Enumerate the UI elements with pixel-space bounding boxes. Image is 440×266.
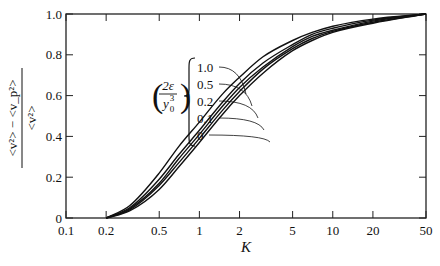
x-tick-label: 5 [289,223,296,238]
legend-entry-0-1: 0.1 [197,111,213,126]
svg-text:0: 0 [170,104,175,114]
y-axis-label: <v²> − <v_p²> <v²> [5,68,39,168]
legend-entry-1-0: 1.0 [197,60,213,75]
x-tick-label: 0.2 [98,223,114,238]
y-tick-label: 0 [56,211,63,226]
x-tick-label: 0.5 [151,223,167,238]
legend-entry-0: 0 [197,128,204,143]
x-tick-label: 1 [196,223,203,238]
plot-frame [66,14,426,218]
chart: 0.10.20.5125102050 00.20.40.60.81.0 ()2ε… [0,0,440,266]
x-axis-label: K [240,239,252,255]
svg-text:3: 3 [170,93,175,103]
data-series [106,14,426,218]
legend-leader-line [219,118,264,130]
svg-text:y: y [161,96,169,111]
legend-leader-line [209,135,270,142]
x-tick-label: 50 [420,223,433,238]
svg-text:2ε: 2ε [162,78,175,93]
x-axis-ticks: 0.10.20.5125102050 [58,14,433,238]
series-curve-0-2 [106,14,426,218]
y-axis-label-denominator: <v²> [24,105,39,130]
series-curve-0 [106,14,426,218]
x-tick-label: 10 [326,223,339,238]
plot-axes [66,14,426,218]
y-tick-label: 0.6 [46,88,63,103]
legend-entry-0-2: 0.2 [197,94,213,109]
series-curve-1-0 [106,14,426,218]
y-axis-label-numerator: <v²> − <v_p²> [5,80,20,157]
legend-entry-0-5: 0.5 [197,77,213,92]
y-tick-label: 1.0 [46,7,62,22]
y-tick-label: 0.8 [46,47,62,62]
x-tick-label: 20 [366,223,379,238]
series-curve-0-5 [106,14,426,218]
y-tick-label: 0.2 [46,170,62,185]
x-tick-label: 2 [236,223,243,238]
series-curve-0-1 [106,14,426,218]
y-axis-ticks: 00.20.40.60.81.0 [46,7,426,226]
y-tick-label: 0.4 [46,129,63,144]
